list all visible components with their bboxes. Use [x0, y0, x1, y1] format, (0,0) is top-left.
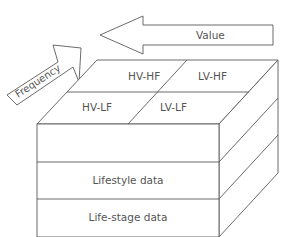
value-label: Value — [196, 29, 225, 41]
left-arrow-icon — [100, 16, 273, 54]
cell-hv-lf: HV-LF — [82, 101, 112, 113]
diagram-canvas: Value Frequency HV-HF LV-HF HV-LF LV-LF … — [0, 0, 290, 237]
cell-hv-hf: HV-HF — [128, 70, 160, 82]
cell-lv-hf: LV-HF — [198, 70, 227, 82]
frequency-label: Frequency — [13, 62, 62, 99]
cell-lv-lf: LV-LF — [160, 101, 187, 113]
layer-lifestyle-label: Lifestyle data — [92, 174, 163, 186]
data-cube: HV-HF LV-HF HV-LF LV-LF Lifestyle data L… — [37, 60, 278, 237]
value-arrow: Value — [100, 16, 273, 54]
layer-life-stage-label: Life-stage data — [89, 211, 168, 223]
